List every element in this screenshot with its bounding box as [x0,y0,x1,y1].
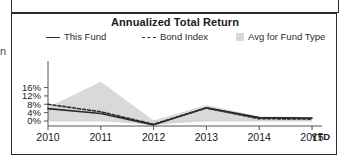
annualized-total-return-chart: Annualized Total Return This Fund Bond I… [11,13,337,155]
x-axis-tick-label: 2014 [248,131,272,143]
x-axis-tick-label: 2010 [36,131,60,143]
ytd-label: YTD [311,131,330,142]
screenshot-root: n Annualized Total Return This Fund Bond… [0,0,348,165]
cutoff-edge-text: n [0,44,10,58]
x-axis-tick-label: 2011 [90,131,113,143]
y-axis-tick-label: 16% [22,82,42,93]
plot-svg: 0%4%8%12%16%201020112012201320142015 [12,14,338,156]
plot-area: 0%4%8%12%16%201020112012201320142015 [12,14,338,156]
x-axis-tick-label: 2013 [195,131,219,143]
x-axis-tick-label: 2012 [142,131,166,143]
upper-panel-fragment [11,0,339,13]
